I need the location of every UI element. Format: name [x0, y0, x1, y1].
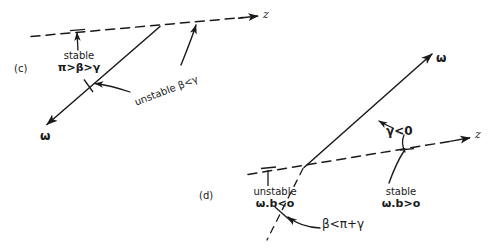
panel-c-omega-label: ω [40, 130, 50, 144]
panel-d-omega-line [304, 54, 432, 168]
diagram-strokes [0, 0, 503, 249]
panel-c-stable-note-line2: π>β>γ [53, 62, 105, 75]
panel-c-label: (c) [14, 63, 27, 75]
panel-c-z-axis [31, 16, 258, 37]
panel-d-stable-note-line2: ω.b>o [372, 198, 430, 211]
panel-d-unstable-note-line2: ω.b<o [248, 198, 302, 211]
panel-c-omega-line [47, 27, 160, 125]
panel-d-stable-pointer [389, 149, 414, 183]
panel-d-axis-label: z [475, 129, 481, 142]
panel-c-stable-note-line1: stable [56, 50, 102, 62]
panel-c-axis-label: z [263, 9, 269, 22]
panel-d-z-axis [248, 138, 470, 175]
panel-d-label: (d) [199, 190, 213, 202]
panel-d-beta-note: β<π+γ [322, 218, 364, 232]
panel-d-stable-note-line1: stable [378, 186, 424, 198]
panel-d-gamma-note: γ<0 [386, 125, 413, 139]
figure-canvas: (c) z ω stable π>β>γ unstable β<γ (d) z … [0, 0, 503, 249]
panel-d-omega-label: ω [436, 52, 446, 66]
panel-d-unstable-note-line1: unstable [248, 186, 302, 198]
panel-c-angle-arc [181, 25, 196, 65]
panel-d-unstable-pointer [261, 167, 276, 186]
